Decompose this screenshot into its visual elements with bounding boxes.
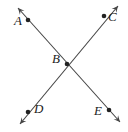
label-e: E [94,104,102,117]
point-e [107,108,112,113]
point-d [26,110,31,115]
geometry-diagram: ACBDE [0,0,128,132]
point-b [65,62,70,67]
label-b: B [52,52,60,65]
label-a: A [14,14,22,27]
label-c: C [108,10,117,23]
label-d: D [34,102,43,115]
point-c [102,14,107,19]
point-a [26,18,31,23]
